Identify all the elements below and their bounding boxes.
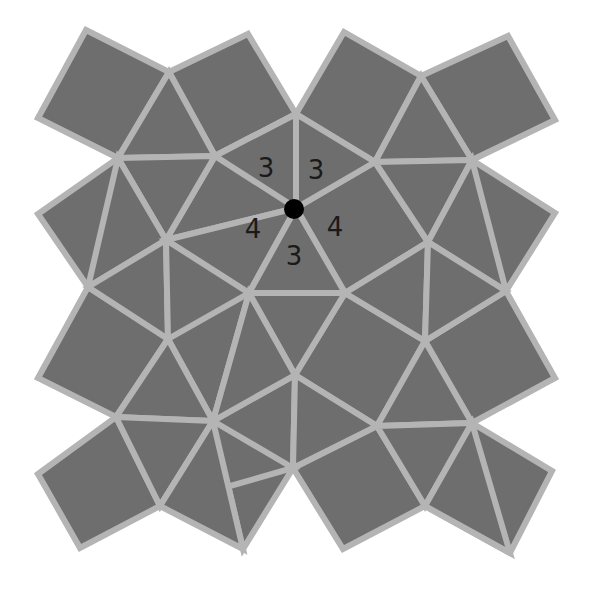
snub-square-tiling: 3 3 4 4 3: [0, 0, 594, 607]
tiling-diagram: 3 3 4 4 3: [0, 0, 594, 607]
label-triangle-upper-right: 3: [308, 155, 325, 185]
label-triangle-bottom: 3: [286, 241, 303, 271]
marked-vertex-dot: [284, 199, 304, 219]
label-square-right: 4: [327, 212, 344, 242]
label-triangle-upper-left: 3: [258, 153, 275, 183]
label-square-left: 4: [245, 214, 262, 244]
